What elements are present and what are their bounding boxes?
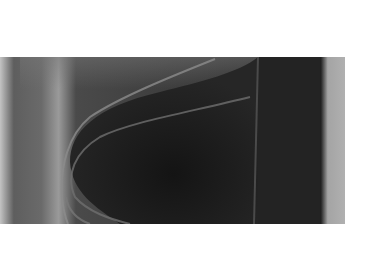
photo-svg — [0, 57, 345, 224]
grayscale-photo — [0, 57, 345, 224]
right-dark-band — [258, 57, 320, 224]
